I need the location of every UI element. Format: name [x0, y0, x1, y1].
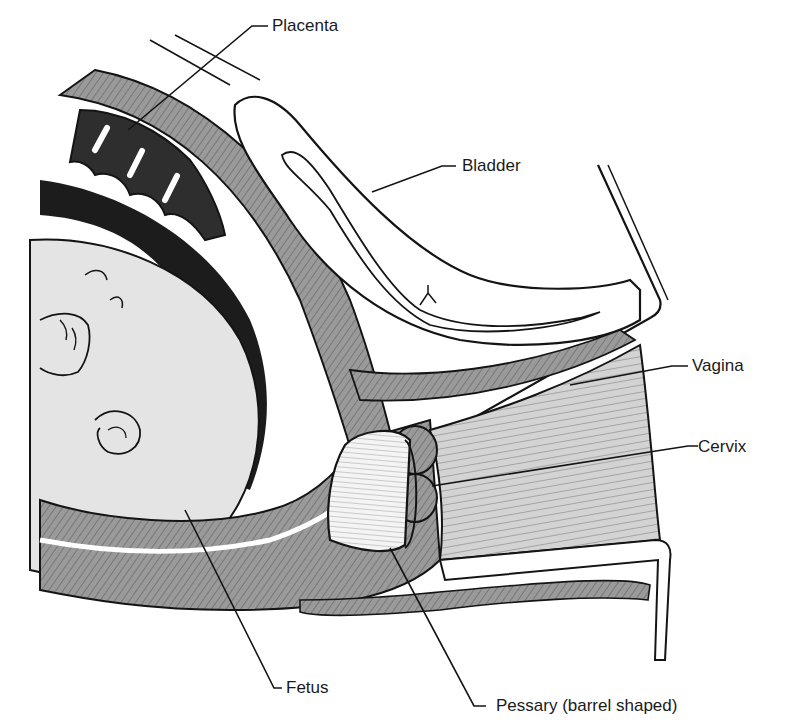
label-vagina: Vagina — [692, 356, 744, 376]
label-cervix: Cervix — [698, 437, 746, 457]
pessary-shape — [328, 431, 416, 551]
label-pessary: Pessary (barrel shaped) — [496, 696, 677, 716]
bladder-shape — [234, 97, 640, 345]
label-bladder: Bladder — [462, 156, 521, 176]
label-placenta: Placenta — [272, 16, 338, 36]
leader-bladder — [372, 166, 456, 192]
anatomy-illustration — [0, 0, 790, 722]
label-fetus: Fetus — [286, 678, 329, 698]
